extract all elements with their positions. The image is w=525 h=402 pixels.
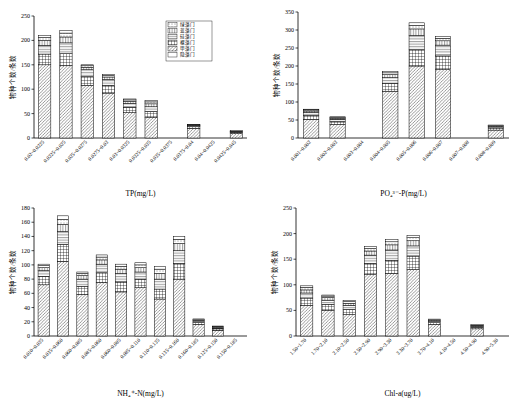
bar-segment [174, 263, 185, 279]
bar-segment [386, 250, 398, 260]
bar-segment [145, 104, 157, 107]
bar-segment [60, 37, 72, 43]
bar-segment [407, 241, 419, 246]
y-tick-label: 250 [285, 45, 294, 51]
bar-segment [322, 298, 334, 301]
x-axis-title: NH₄⁺-N(mg/L) [117, 389, 164, 398]
bar-segment [188, 128, 200, 138]
bar-segment [102, 85, 114, 93]
bar-segment [304, 109, 319, 110]
legend-label: 甲藻门 [180, 45, 195, 52]
bar-segment [135, 279, 146, 288]
bar-segment [174, 279, 185, 336]
bar-segment [38, 264, 49, 265]
bar-segment [81, 70, 93, 77]
bar-segment [364, 246, 376, 248]
bar-segment [322, 295, 334, 296]
y-tick-label: 0 [27, 333, 30, 339]
y-tick-label: 0 [289, 333, 292, 339]
bar-segment [409, 66, 424, 138]
bar-segment [38, 266, 49, 268]
bar-segment [81, 85, 93, 138]
bar-segment [383, 71, 398, 72]
bar-segment [38, 36, 50, 38]
bar-segment [135, 265, 146, 268]
figure-root: 050100150200250物种个数/条数0.02~0.02250.0225~… [0, 0, 525, 402]
bar-segment [322, 310, 334, 336]
bar-segment [212, 330, 223, 336]
bar-segment [330, 119, 345, 121]
bar-segment [471, 325, 483, 326]
x-tick-label: 3.70~4.10 [416, 337, 435, 356]
bar-segment [116, 292, 127, 336]
bar-segment [145, 112, 157, 118]
bar-segment [386, 242, 398, 245]
y-tick-label: 250 [283, 205, 292, 211]
bar-segment [154, 269, 165, 273]
bar-segment [57, 261, 68, 336]
y-tick-label: 50 [286, 307, 292, 313]
x-tick-label: 0.003~0.004 [342, 139, 365, 162]
x-tick-label: 0.004~0.005 [368, 139, 391, 162]
bar-segment [124, 107, 136, 112]
bar-segment [304, 112, 319, 115]
bar-segment [38, 276, 49, 285]
y-tick-label: 300 [285, 27, 294, 33]
bar-segment [38, 65, 50, 138]
x-tick-label: 4.10~4.50 [437, 337, 456, 356]
y-tick-label: 50 [288, 117, 294, 123]
bar-segment [145, 107, 157, 112]
chart-panel-nh4: 020406080100120140160180物种个数/条数0.010~0.0… [0, 198, 255, 398]
x-tick-label: 2.10~2.50 [331, 337, 350, 356]
bar-segment [435, 41, 450, 45]
x-tick-label: 0.006~0.007 [421, 139, 444, 162]
x-tick-label: 0.001~0.002 [289, 139, 312, 162]
x-tick-label: 0.0425~0.045 [212, 139, 237, 164]
bar-segment [96, 264, 107, 273]
y-tick-label: 150 [21, 62, 30, 68]
bar-segment [230, 134, 242, 138]
bar-segment [322, 300, 334, 304]
y-tick-label: 150 [285, 81, 294, 87]
legend-label: 裸藻门 [180, 39, 195, 46]
bar-segment [386, 245, 398, 250]
bar-segment [38, 285, 49, 336]
y-tick-label: 100 [21, 262, 30, 268]
y-tick-label: 0 [27, 135, 30, 141]
y-tick-label: 40 [24, 305, 30, 311]
bar-segment [343, 305, 355, 309]
chart-nh4: 020406080100120140160180物种个数/条数0.010~0.0… [0, 198, 255, 398]
y-tick-label: 160 [21, 219, 30, 225]
bar-segment [383, 75, 398, 78]
bar-segment [488, 128, 503, 130]
bar-segment [145, 100, 157, 101]
bar-segment [154, 273, 165, 279]
bar-segment [330, 121, 345, 124]
x-axis-title: TP(mg/L) [126, 189, 156, 198]
bar-segment [135, 268, 146, 272]
bar-segment [409, 23, 424, 26]
y-tick-label: 120 [21, 248, 30, 254]
bar-segment [57, 244, 68, 261]
bar-segment [304, 115, 319, 119]
bar-segment [407, 269, 419, 336]
bar-segment [383, 83, 398, 91]
bar-segment [57, 224, 68, 231]
bar-segment [154, 266, 165, 269]
y-tick-label: 100 [285, 99, 294, 105]
bar-segment [435, 45, 450, 56]
bar-segment [60, 54, 72, 66]
x-tick-label: 2.90~3.30 [373, 337, 392, 356]
bar-segment [77, 279, 88, 286]
bar-segment [124, 101, 136, 103]
bar-segment [77, 276, 88, 280]
bar-segment [343, 303, 355, 305]
bar-segment [116, 273, 127, 282]
bar-segment [435, 56, 450, 70]
bar-segment [383, 91, 398, 138]
bar-segment [471, 329, 483, 336]
x-tick-label: 4.90~5.30 [480, 337, 499, 356]
y-tick-label: 180 [21, 205, 30, 211]
bar-segment [343, 301, 355, 302]
y-tick-label: 150 [283, 256, 292, 262]
